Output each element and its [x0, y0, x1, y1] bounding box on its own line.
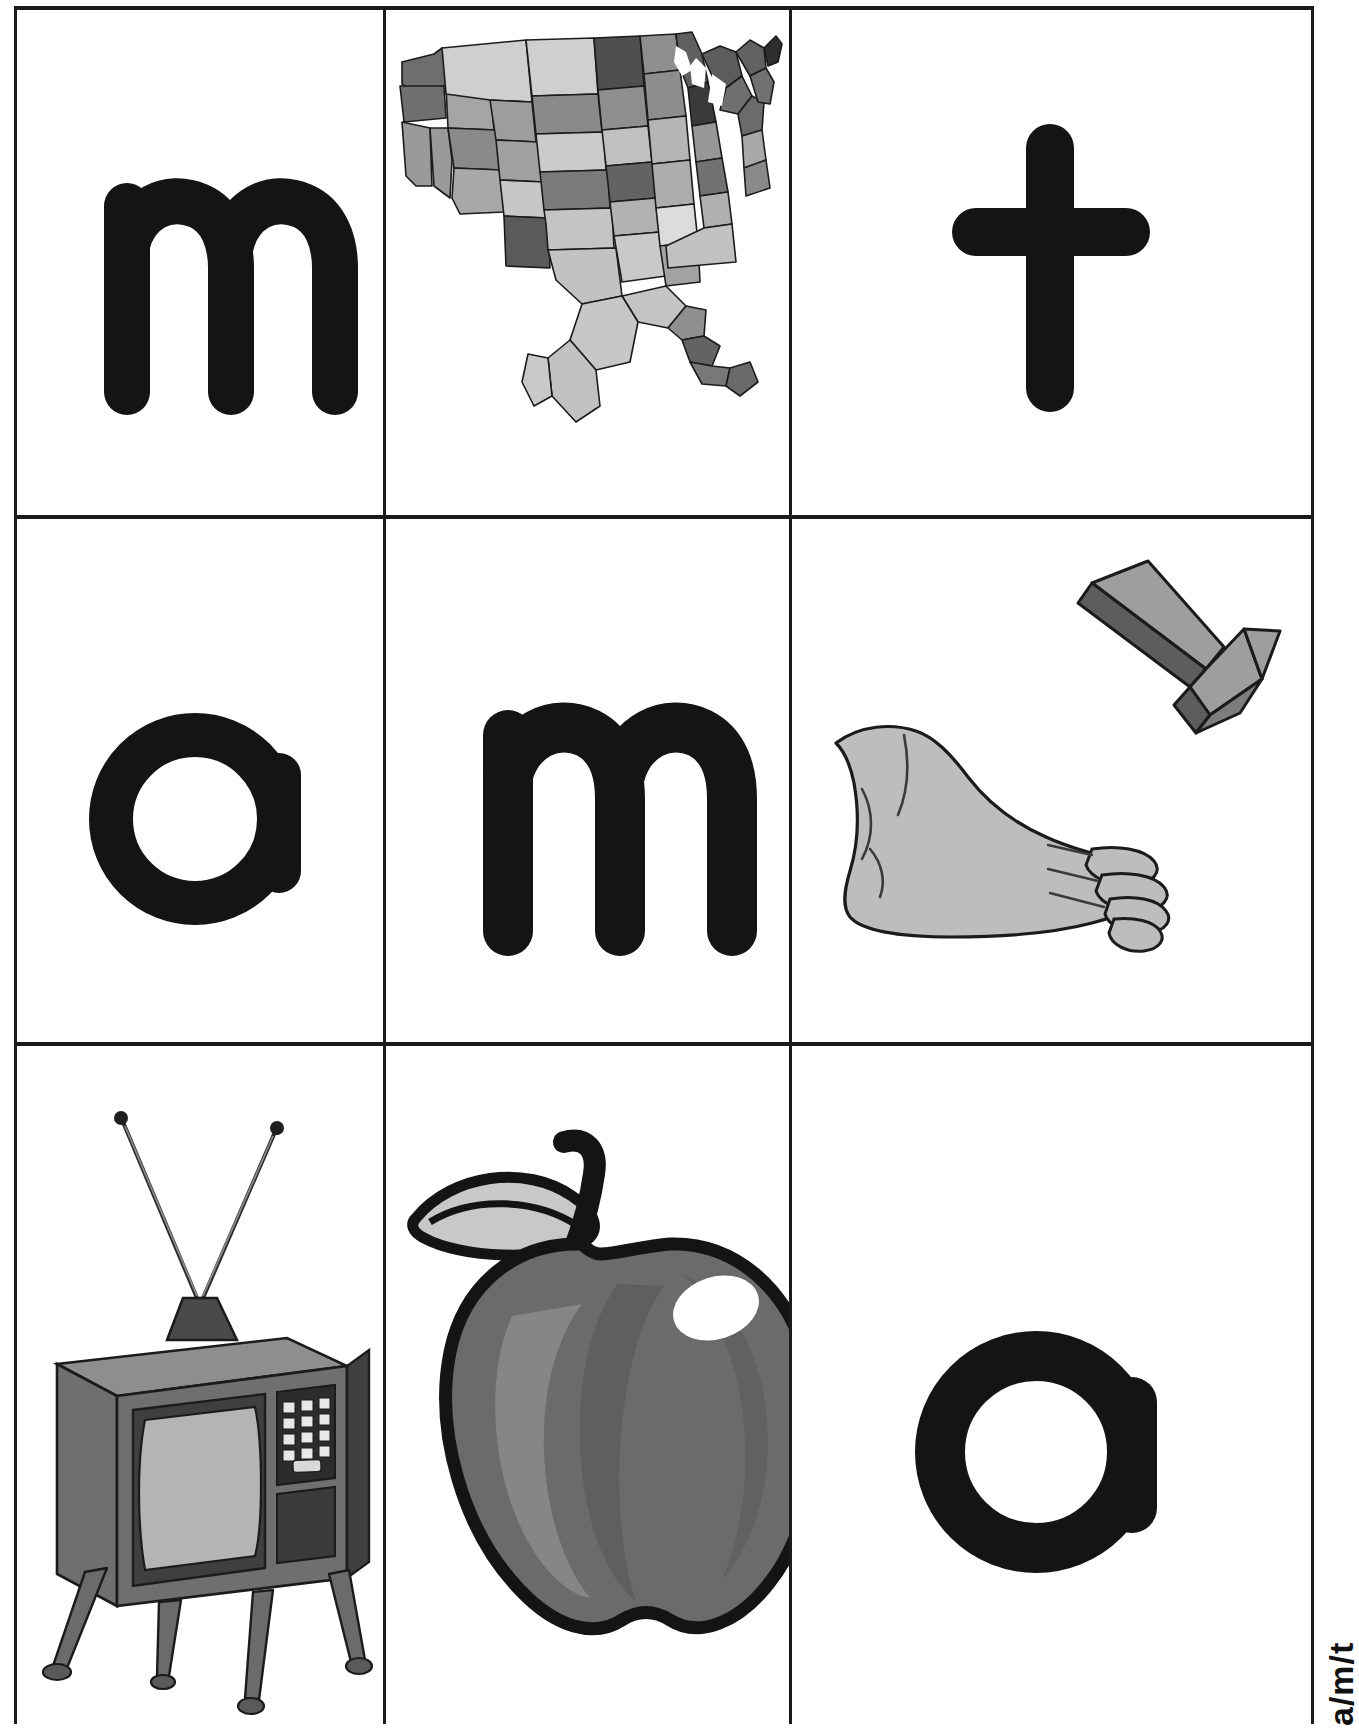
letter-m-glyph: [17, 10, 383, 515]
letter-a-card[interactable]: [17, 519, 383, 1040]
picture-apple-card[interactable]: [386, 1046, 789, 1718]
foot-with-arrow-icon: [792, 519, 1311, 1040]
television-icon: [17, 1046, 383, 1718]
apple-icon: [386, 1046, 789, 1718]
letter-a-card[interactable]: [792, 1046, 1311, 1718]
grid-border-right: [1311, 6, 1314, 1724]
letter-m-card[interactable]: [386, 519, 789, 1040]
letter-a-glyph: [17, 519, 383, 1040]
united-states-map-icon: [386, 10, 789, 515]
letter-a-glyph: [792, 1046, 1311, 1718]
picture-map-card[interactable]: [386, 10, 789, 515]
letter-t-card[interactable]: [792, 10, 1311, 515]
letter-m-card[interactable]: [17, 10, 383, 515]
letter-m-glyph: [386, 519, 789, 1040]
picture-foot-card[interactable]: [792, 519, 1311, 1040]
picture-tv-card[interactable]: [17, 1046, 383, 1718]
letter-t-glyph: [792, 10, 1311, 515]
footer-label: a/m/t: [1322, 1642, 1359, 1726]
